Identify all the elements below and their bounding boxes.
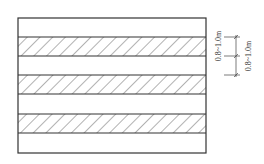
dimension-lines	[224, 35, 240, 77]
dimension-label-1: 0.8~1.0m	[214, 30, 223, 61]
hatched-band-3	[18, 114, 206, 133]
dimension-label-2: 0.8~1.0m	[244, 40, 253, 71]
hatched-band-1	[18, 37, 206, 56]
hatched-band-2	[18, 75, 206, 94]
striped-section-diagram: 0.8~1.0m 0.8~1.0m	[0, 0, 264, 164]
